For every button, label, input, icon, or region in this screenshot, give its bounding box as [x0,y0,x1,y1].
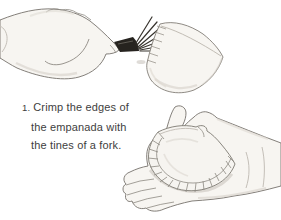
fist-holding-fork [0,9,168,79]
hand-crimping-empanada-with-fork-illustration [0,0,240,100]
book-page: 1.Crimp the edges of the empanada with t… [0,0,281,220]
empanada-being-crimped [137,23,224,93]
caption-text: Crimp the edges of [33,101,129,113]
step-number: 1. [22,102,30,113]
hand-holding-crimped-empanada-illustration [118,100,281,220]
